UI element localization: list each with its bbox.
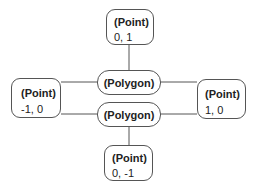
node-value: -1, 0	[21, 103, 43, 115]
point-node-bottom[interactable]: (Point) 0, -1	[104, 145, 153, 181]
node-type-label: (Polygon)	[104, 77, 155, 89]
node-type-label: (Point)	[114, 16, 149, 28]
node-type-label: (Point)	[21, 87, 56, 99]
node-type-label: (Point)	[112, 152, 147, 164]
node-value: 0, 1	[114, 31, 132, 43]
point-node-right[interactable]: (Point) 1, 0	[197, 79, 246, 119]
point-node-left[interactable]: (Point) -1, 0	[11, 78, 61, 118]
polygon-node-upper[interactable]: (Polygon)	[97, 70, 161, 95]
node-value: 0, -1	[112, 167, 134, 179]
polygon-node-lower[interactable]: (Polygon)	[97, 102, 161, 127]
node-value: 1, 0	[205, 104, 223, 116]
node-type-label: (Point)	[205, 88, 240, 100]
node-type-label: (Polygon)	[104, 109, 155, 121]
point-node-top[interactable]: (Point) 0, 1	[106, 9, 154, 45]
